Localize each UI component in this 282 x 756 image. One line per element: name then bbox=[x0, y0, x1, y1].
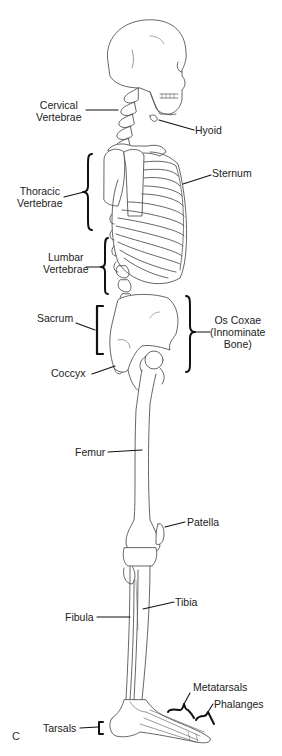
sacrum-bracket bbox=[97, 306, 103, 354]
label-cervical-vertebrae: Cervical Vertebrae bbox=[36, 99, 82, 123]
metatarsals-leader-line bbox=[184, 693, 190, 704]
label-thoracic-vertebrae: Thoracic Vertebrae bbox=[17, 185, 63, 209]
sternum-leader-line bbox=[183, 175, 211, 184]
label-sacrum: Sacrum bbox=[37, 312, 73, 324]
phalanges-leader-line bbox=[208, 704, 213, 712]
femur-bone bbox=[126, 370, 160, 556]
metatarsals-bracket bbox=[168, 704, 194, 718]
label-patella: Patella bbox=[187, 516, 219, 528]
phalanges-bracket bbox=[196, 712, 214, 724]
label-lumbar-vertebrae: Lumbar Vertebrae bbox=[43, 251, 89, 275]
panel-letter: C bbox=[12, 730, 20, 742]
label-line: Cervical bbox=[36, 99, 82, 111]
patella-bone bbox=[156, 524, 164, 545]
label-fibula: Fibula bbox=[65, 611, 94, 623]
label-metatarsals: Metatarsals bbox=[193, 681, 247, 693]
skull bbox=[107, 20, 186, 115]
label-line: Os Coxae bbox=[210, 314, 265, 326]
lumbar-bracket bbox=[101, 238, 108, 294]
label-hyoid: Hyoid bbox=[195, 124, 222, 136]
label-line: Lumbar bbox=[43, 251, 89, 263]
label-sternum: Sternum bbox=[212, 167, 252, 179]
thoracic-leader-line bbox=[64, 192, 84, 197]
label-line: Bone) bbox=[210, 338, 265, 350]
lower-leg-bones bbox=[123, 548, 157, 700]
tarsals-bracket bbox=[99, 722, 103, 734]
sacrum-leader-line bbox=[76, 323, 95, 330]
coccyx-leader-line bbox=[92, 366, 115, 374]
patella-leader-line bbox=[165, 522, 185, 527]
hyoid-leader-line bbox=[159, 120, 194, 130]
label-line: Thoracic bbox=[17, 185, 63, 197]
label-os-coxae: Os Coxae (Innominate Bone) bbox=[210, 314, 265, 350]
tibia-leader-line bbox=[143, 602, 174, 609]
label-line: Vertebrae bbox=[36, 111, 82, 123]
label-tarsals: Tarsals bbox=[43, 722, 76, 734]
hyoid-bone bbox=[150, 115, 157, 121]
os-coxae-bracket bbox=[186, 296, 195, 372]
label-line: (Innominate bbox=[210, 326, 265, 338]
label-coccyx: Coccyx bbox=[51, 367, 85, 379]
tarsals-leader-line bbox=[80, 727, 98, 728]
label-line: Vertebrae bbox=[43, 263, 89, 275]
label-phalanges: Phalanges bbox=[214, 698, 264, 710]
label-line: Vertebrae bbox=[17, 197, 63, 209]
label-femur: Femur bbox=[75, 446, 105, 458]
label-tibia: Tibia bbox=[175, 596, 197, 608]
foot-bones bbox=[110, 700, 210, 743]
